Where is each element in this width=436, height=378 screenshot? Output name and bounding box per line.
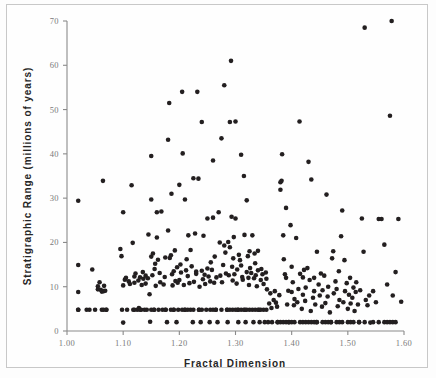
data-point: [258, 278, 263, 283]
y-tick-label: 20: [50, 237, 59, 247]
data-point: [184, 268, 189, 273]
data-point: [236, 320, 241, 325]
data-point: [208, 260, 213, 265]
figure-container: 010203040506070 1.001.101.201.301.401.50…: [0, 0, 436, 378]
data-point: [356, 302, 361, 307]
data-point: [379, 217, 384, 222]
data-point: [200, 268, 205, 273]
data-point: [200, 120, 205, 125]
data-point: [234, 281, 239, 286]
data-point: [184, 257, 189, 262]
data-point: [297, 119, 302, 124]
data-point: [121, 283, 126, 288]
data-point: [315, 320, 320, 325]
data-point: [139, 283, 144, 288]
x-tick-label: 1.60: [396, 338, 412, 348]
data-point: [219, 307, 224, 312]
data-point: [344, 281, 349, 286]
data-point: [148, 319, 153, 324]
data-point: [357, 320, 362, 325]
data-point: [274, 300, 279, 305]
data-point: [343, 289, 348, 294]
data-point: [232, 235, 237, 240]
data-point: [258, 307, 263, 312]
data-point: [325, 294, 330, 299]
data-point: [275, 304, 280, 309]
data-point: [337, 269, 342, 274]
data-point: [351, 320, 356, 325]
data-point: [371, 320, 376, 325]
data-point: [270, 320, 275, 325]
data-point: [385, 282, 390, 287]
x-tick-label: 1.30: [227, 338, 243, 348]
data-point: [257, 320, 262, 325]
data-point: [219, 136, 224, 141]
data-point: [155, 235, 160, 240]
data-point: [396, 217, 401, 222]
data-point: [177, 183, 182, 188]
data-point: [246, 254, 251, 259]
data-point: [312, 276, 317, 281]
data-point: [364, 298, 369, 303]
data-point: [241, 277, 246, 282]
data-point: [360, 216, 365, 221]
data-point: [347, 292, 352, 297]
data-point: [193, 231, 198, 236]
data-point: [169, 253, 174, 258]
data-point: [328, 310, 333, 315]
x-axis-title: Fractal Dimension: [184, 358, 286, 369]
plot-svg: 010203040506070 1.001.101.201.301.401.50…: [0, 0, 436, 378]
y-tick-label: 10: [50, 282, 59, 292]
data-point: [185, 307, 190, 312]
data-point: [179, 270, 184, 275]
data-point: [201, 277, 206, 282]
data-point: [191, 320, 196, 325]
data-point: [163, 255, 168, 260]
y-tick-label: 70: [50, 16, 59, 26]
data-point: [351, 285, 356, 290]
data-point: [150, 273, 155, 278]
data-point: [207, 320, 212, 325]
data-point: [133, 271, 138, 276]
data-point: [253, 273, 258, 278]
data-point: [282, 257, 287, 262]
data-point: [221, 263, 226, 268]
data-point: [320, 288, 325, 293]
data-point: [120, 307, 125, 312]
y-tick-label: 0: [54, 326, 59, 336]
data-point: [371, 289, 376, 294]
data-point: [307, 278, 312, 283]
data-point: [301, 275, 306, 280]
data-point: [180, 151, 185, 156]
data-point: [153, 261, 158, 266]
data-point: [285, 302, 290, 307]
data-point: [279, 179, 284, 184]
data-point: [76, 307, 81, 312]
data-point: [97, 280, 102, 285]
data-point: [101, 307, 106, 312]
data-point: [101, 179, 106, 184]
data-point: [284, 206, 289, 211]
data-point: [169, 191, 174, 196]
data-point: [259, 267, 264, 272]
data-point: [222, 83, 227, 88]
data-point: [93, 307, 98, 312]
data-point: [143, 281, 148, 286]
data-point: [206, 274, 211, 279]
data-point: [121, 320, 126, 325]
data-point: [152, 267, 157, 272]
data-point: [303, 285, 308, 290]
data-point: [346, 307, 351, 312]
data-point: [354, 280, 359, 285]
data-point: [243, 320, 248, 325]
data-point: [153, 284, 158, 289]
data-point: [322, 273, 327, 278]
data-point: [192, 280, 197, 285]
data-point: [365, 303, 370, 308]
data-point: [266, 320, 271, 325]
data-point: [186, 233, 191, 238]
data-point: [200, 307, 205, 312]
data-point: [301, 292, 306, 297]
data-point: [171, 307, 176, 312]
data-point: [247, 249, 252, 254]
